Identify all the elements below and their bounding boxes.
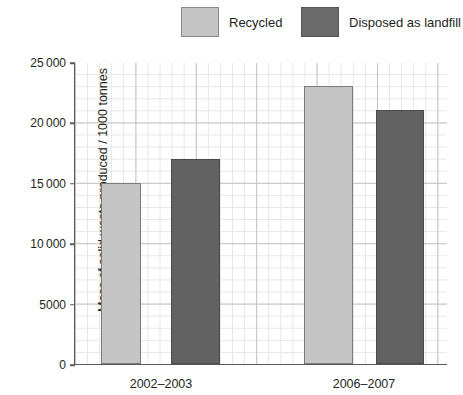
bar-chart: Recycled Disposed as landfill Mass of so…	[0, 0, 463, 395]
x-tick-label-2006-2007: 2006–2007	[333, 377, 396, 391]
legend-label-recycled: Recycled	[229, 15, 282, 30]
bar-2002-2003-recycled	[101, 183, 141, 364]
x-tick-label-2002-2003: 2002–2003	[130, 377, 193, 391]
y-tick-label-5000: 5000	[39, 298, 75, 312]
bar-2006-2007-recycled	[304, 86, 353, 364]
chart-legend: Recycled Disposed as landfill	[0, 0, 463, 46]
y-tick-label-25000: 25 000	[30, 56, 75, 70]
bar-2006-2007-landfill	[376, 110, 424, 364]
y-tick-label-15000: 15 000	[30, 177, 75, 191]
bar-2002-2003-landfill	[171, 159, 220, 364]
legend-item-recycled: Recycled	[181, 7, 282, 37]
y-tick-label-10000: 10 000	[30, 237, 75, 251]
legend-item-landfill: Disposed as landfill	[301, 7, 461, 37]
y-tick-label-0: 0	[59, 358, 75, 372]
legend-swatch-icon-landfill	[301, 7, 339, 37]
legend-swatch-icon-recycled	[181, 7, 219, 37]
y-tick-label-20000: 20 000	[30, 116, 75, 130]
plot-area: Mass of solid waste produced / 1000 tonn…	[74, 63, 447, 365]
legend-label-landfill: Disposed as landfill	[349, 15, 461, 30]
